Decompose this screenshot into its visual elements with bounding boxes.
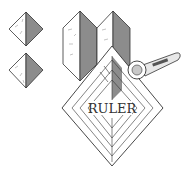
half-square-triangle-unit-1 [9,12,43,46]
half-square-triangle-unit-2 [9,53,43,88]
ruler-label: RULER [88,101,138,116]
rotary-cutter [128,53,180,79]
diagram-canvas: RULER [0,0,187,172]
